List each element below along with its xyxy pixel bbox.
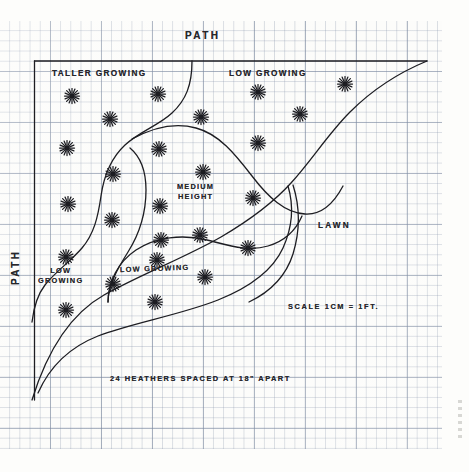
heather-plant <box>293 107 308 122</box>
lawn-boundary-curve <box>32 61 427 400</box>
drawing-sheet: PATH PATH TALLER GROWING LOW GROWING MED… <box>0 0 469 472</box>
heather-plant <box>105 213 120 228</box>
label-low-growing-top: LOW GROWING <box>229 70 307 79</box>
heather-plant <box>241 241 256 256</box>
label-low-growing-left-line2: GROWING <box>38 276 83 286</box>
heather-plant <box>251 85 266 100</box>
page-edge-artifact <box>458 400 462 442</box>
heather-plant <box>59 250 74 265</box>
heather-plant <box>61 197 76 212</box>
heather-plant <box>193 228 208 243</box>
heather-plant <box>152 142 167 157</box>
label-taller-growing: TALLER GROWING <box>52 70 147 79</box>
label-scale: SCALE 1CM = 1FT. <box>288 303 379 311</box>
heather-plant <box>196 165 211 180</box>
label-medium-height: MEDIUM HEIGHT <box>177 182 214 202</box>
heather-plant <box>194 110 209 125</box>
heather-plant <box>148 295 163 310</box>
heather-plant <box>198 270 213 285</box>
heather-plant <box>106 277 121 292</box>
heather-plant <box>151 87 166 102</box>
heather-plant <box>338 77 353 92</box>
label-path-left: PATH <box>11 250 22 285</box>
heather-plant <box>154 233 169 248</box>
heather-plant <box>103 112 118 127</box>
zone-divider-low-medium <box>132 126 343 214</box>
label-lawn: LAWN <box>318 222 351 231</box>
low-growing-bed-outline <box>108 216 302 302</box>
heather-plant <box>153 199 168 214</box>
heather-plant <box>246 191 261 206</box>
label-low-growing-left-line1: LOW <box>38 266 83 276</box>
heather-plant <box>106 167 121 182</box>
label-medium-height-line2: HEIGHT <box>177 192 214 202</box>
label-low-growing-left: LOW GROWING <box>38 266 83 286</box>
heather-plant <box>251 136 266 151</box>
zone-divider-lawn-edge <box>38 186 291 393</box>
heather-plant <box>60 141 75 156</box>
heather-plant <box>65 89 80 104</box>
label-path-top: PATH <box>185 31 220 42</box>
label-medium-height-line1: MEDIUM <box>177 182 214 192</box>
label-caption: 24 HEATHERS SPACED AT 18" APART <box>110 375 291 383</box>
heather-plant <box>59 303 74 318</box>
